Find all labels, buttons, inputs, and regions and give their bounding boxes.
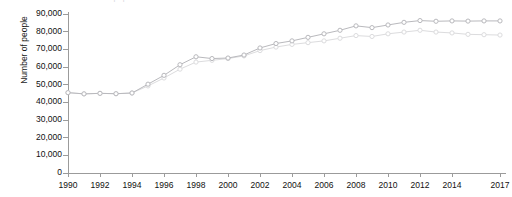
series-2 [66,28,502,96]
y-tick [63,49,68,50]
data-point-marker [82,92,86,96]
y-tick-label-text: 40,000 [10,97,62,105]
data-point-marker [338,36,342,40]
data-point-marker [194,60,198,64]
data-point-marker [98,91,102,95]
data-point-marker [274,45,278,49]
y-tick-label: 20,000 [6,133,62,141]
data-point-marker [242,54,246,58]
data-point-marker [434,30,438,34]
y-tick-label-text: 0 [10,168,62,176]
data-point-marker [450,31,454,35]
y-tick-label: 50,000 [6,80,62,88]
data-point-marker [482,19,486,23]
y-tick-label-text: 20,000 [10,133,62,141]
data-point-marker [450,19,454,23]
y-tick-label: 30,000 [6,115,62,123]
series-line [68,30,500,94]
series-1 [66,18,502,96]
y-tick-label: 70,000 [6,44,62,52]
y-axis-line [68,12,69,173]
y-tick-label-text: 90,000 [10,9,62,17]
data-point-marker [162,73,166,77]
data-point-marker [114,92,118,96]
data-point-marker [354,24,358,28]
y-tick-label: 10,000 [6,150,62,158]
y-tick-label: 40,000 [6,97,62,105]
x-tick [388,173,389,177]
data-point-marker [306,41,310,45]
x-tick-label: 2014 [432,180,472,190]
data-point-marker [274,41,278,45]
y-tick-label-text: 70,000 [10,44,62,52]
data-point-marker [130,91,134,95]
data-point-marker [194,55,198,59]
data-point-marker [370,34,374,38]
data-point-marker [386,23,390,27]
x-tick [68,173,69,177]
x-tick [228,173,229,177]
data-point-marker [290,39,294,43]
data-point-marker [98,91,102,95]
data-point-marker [322,39,326,43]
data-point-marker [466,19,470,23]
data-point-marker [338,28,342,32]
data-point-marker [402,20,406,24]
y-tick-label-text: 30,000 [10,115,62,123]
data-point-marker [434,19,438,23]
y-tick [63,67,68,68]
line-chart: Prison population Number of people 010,0… [0,0,512,197]
y-tick-label-text: 10,000 [10,150,62,158]
y-tick [63,120,68,121]
y-tick-label: 90,000 [6,9,62,17]
data-point-marker [290,42,294,46]
data-point-marker [498,33,502,37]
y-tick [63,155,68,156]
data-point-marker [418,28,422,32]
data-point-marker [258,46,262,50]
data-point-marker [82,92,86,96]
y-tick [63,137,68,138]
x-tick [260,173,261,177]
x-tick [500,173,501,177]
data-point-marker [418,18,422,22]
data-point-marker [258,49,262,53]
data-point-marker [146,84,150,88]
x-tick [420,173,421,177]
data-point-marker [226,56,230,60]
y-tick-label: 80,000 [6,27,62,35]
x-tick [100,173,101,177]
x-tick [132,173,133,177]
y-tick-label-text: 60,000 [10,62,62,70]
data-point-marker [210,58,214,62]
data-point-marker [370,26,374,30]
data-point-marker [322,32,326,36]
data-point-marker [498,19,502,23]
x-tick [196,173,197,177]
series-layer [0,0,512,197]
data-point-marker [130,91,134,95]
data-point-marker [242,53,246,57]
data-point-marker [178,67,182,71]
data-point-marker [482,33,486,37]
data-point-marker [178,63,182,67]
y-tick [63,84,68,85]
data-point-marker [354,33,358,37]
data-point-marker [146,82,150,86]
x-tick-label: 2017 [480,180,512,190]
y-tick-label-text: 80,000 [10,27,62,35]
data-point-marker [386,32,390,36]
data-point-marker [114,92,118,96]
y-tick [63,102,68,103]
data-point-marker [306,35,310,39]
x-tick [452,173,453,177]
x-tick [292,173,293,177]
data-point-marker [402,30,406,34]
x-tick [164,173,165,177]
y-tick-label: 0 [6,168,62,176]
data-point-marker [162,76,166,80]
x-tick [324,173,325,177]
chart-title: Prison population [88,0,388,2]
data-point-marker [226,56,230,60]
x-tick [356,173,357,177]
